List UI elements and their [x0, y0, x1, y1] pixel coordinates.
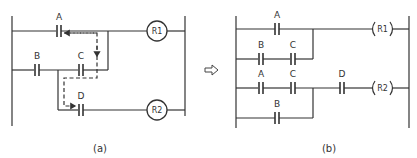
svg-text:R2: R2: [152, 106, 163, 115]
label-b: B: [34, 51, 40, 61]
svg-text:R1: R1: [377, 25, 388, 34]
contact-b-a1: [275, 23, 279, 35]
contact-b-d: [340, 82, 344, 94]
label-a: A: [56, 12, 63, 22]
caption-a: (a): [93, 143, 107, 154]
contact-b: [35, 64, 39, 76]
contact-c: [79, 64, 83, 76]
coil-b-r1: R1: [373, 22, 393, 36]
contact-b-b2: [275, 112, 279, 124]
contact-a: [57, 25, 61, 37]
panel-a: A R1 B C D R2: [12, 12, 185, 154]
coil-b-r2: R2: [373, 81, 393, 95]
contact-b-c2: [291, 82, 295, 94]
contact-b-b1: [259, 53, 263, 65]
coil-r1: R1: [147, 21, 167, 41]
label-b-a2: A: [258, 69, 265, 79]
label-b-c1: C: [290, 40, 296, 50]
ladder-diagram: A R1 B C D R2: [0, 0, 417, 158]
label-b-b1: B: [258, 40, 264, 50]
svg-text:R2: R2: [377, 84, 388, 93]
label-d: D: [78, 91, 85, 101]
svg-text:R1: R1: [152, 27, 163, 36]
label-b-b2: B: [274, 99, 280, 109]
panel-b: A R1 B C A: [236, 10, 409, 154]
contact-b-a2: [259, 82, 263, 94]
caption-b: (b): [322, 143, 336, 154]
label-b-a1: A: [274, 10, 281, 20]
label-b-d: D: [339, 69, 346, 79]
label-c: C: [78, 51, 84, 61]
contact-d: [79, 104, 83, 116]
contact-b-c1: [291, 53, 295, 65]
label-b-c2: C: [290, 69, 296, 79]
coil-r2: R2: [147, 100, 167, 120]
transform-arrow-icon: [205, 65, 218, 75]
